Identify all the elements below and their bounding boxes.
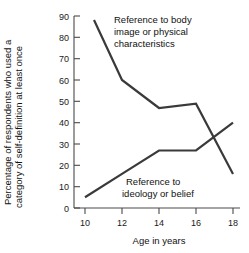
x-axis-title: Age in years (133, 235, 186, 246)
y-tick-label: 10 (59, 182, 69, 192)
y-tick-label: 70 (59, 54, 69, 64)
annotation-ideology-line-1: Reference to (126, 176, 180, 187)
annotation-body-image: Reference to body image or physical char… (114, 14, 192, 49)
y-tick-label: 60 (59, 76, 69, 86)
x-tick-marks (85, 208, 233, 214)
y-axis-title-line-2: category of self-definition at least onc… (13, 46, 24, 208)
annotation-ideology: Reference to ideology or belief (122, 176, 194, 199)
x-tick-label: 14 (154, 218, 164, 228)
annotation-ideology-line-2: ideology or belief (122, 188, 194, 199)
y-tick-label: 80 (59, 33, 69, 43)
y-tick-label: 40 (59, 118, 69, 128)
line-chart: Percentage of respondents who used a cat… (0, 0, 249, 253)
annotation-body-image-line-1: Reference to body (114, 14, 192, 25)
y-axis-title-line-1: Percentage of respondents who used a (2, 39, 13, 205)
annotation-body-image-line-2: image or physical (114, 26, 188, 37)
annotation-body-image-line-3: characteristics (114, 38, 175, 49)
chart-container: Percentage of respondents who used a cat… (0, 0, 249, 253)
y-tick-label: 30 (59, 140, 69, 150)
y-tick-label: 0 (64, 204, 69, 214)
x-tick-labels: 10 12 14 16 18 (80, 218, 238, 228)
y-tick-label: 20 (59, 161, 69, 171)
y-tick-labels: 90 80 70 60 50 40 30 20 10 0 (59, 12, 69, 214)
y-tick-label: 50 (59, 97, 69, 107)
y-tick-label: 90 (59, 12, 69, 22)
x-tick-label: 10 (80, 218, 90, 228)
x-tick-label: 18 (228, 218, 238, 228)
y-tick-marks (74, 16, 80, 208)
x-tick-label: 16 (191, 218, 201, 228)
x-tick-label: 12 (117, 218, 127, 228)
